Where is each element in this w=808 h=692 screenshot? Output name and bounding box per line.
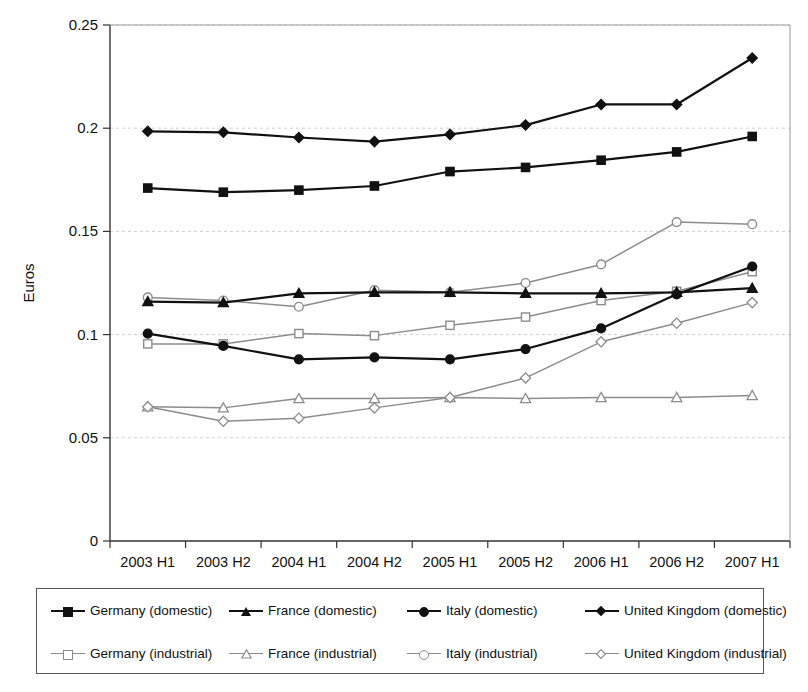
filled-square-marker — [295, 186, 303, 194]
filled-diamond-marker — [294, 132, 304, 142]
filled-circle-glyph — [419, 607, 429, 617]
legend-row-industrial: Germany (industrial) France (industrial)… — [37, 632, 763, 675]
open-circle-icon — [407, 647, 441, 661]
legend-label: Italy (industrial) — [446, 646, 538, 661]
filled-square-marker — [219, 188, 227, 196]
legend-item-germany-domestic[interactable]: Germany (domestic) — [51, 603, 229, 618]
open-triangle-glyph — [241, 650, 251, 659]
filled-diamond-marker — [445, 129, 455, 139]
filled-square-marker — [521, 163, 529, 171]
filled-square-marker — [446, 167, 454, 175]
open-circle-marker — [672, 218, 681, 227]
filled-circle-marker — [143, 329, 152, 338]
filled-triangle-glyph — [241, 607, 251, 616]
filled-diamond-glyph — [596, 606, 606, 616]
open-square-marker — [295, 329, 303, 337]
x-tick-label: 2005 H1 — [423, 554, 478, 570]
legend-item-united-kingdom-domestic[interactable]: United Kingdom (domestic) — [585, 603, 763, 618]
legend-item-italy-domestic[interactable]: Italy (domestic) — [407, 603, 585, 618]
filled-square-marker — [673, 148, 681, 156]
legend-item-france-industrial[interactable]: France (industrial) — [229, 646, 407, 661]
legend-label: United Kingdom (domestic) — [624, 603, 787, 618]
open-square-glyph — [63, 650, 73, 660]
x-tick-label: 2006 H2 — [649, 554, 704, 570]
x-tick-label: 2003 H1 — [120, 554, 175, 570]
legend-label: United Kingdom (industrial) — [624, 646, 787, 661]
filled-circle-marker — [446, 355, 455, 364]
y-tick-label: 0.1 — [77, 326, 98, 343]
filled-diamond-marker — [369, 137, 379, 147]
filled-diamond-marker — [747, 53, 757, 63]
legend-row-domestic: Germany (domestic) France (domestic) Ita… — [37, 589, 763, 632]
open-diamond-marker — [369, 403, 379, 413]
y-tick-label: 0.2 — [77, 119, 98, 136]
filled-square-icon — [51, 604, 85, 618]
legend-item-united-kingdom-industrial[interactable]: United Kingdom (industrial) — [585, 646, 763, 661]
filled-circle-marker — [521, 345, 530, 354]
legend-label: Italy (domestic) — [446, 603, 538, 618]
x-tick-label: 2005 H2 — [498, 554, 553, 570]
series-line — [148, 272, 752, 344]
legend-item-germany-industrial[interactable]: Germany (industrial) — [51, 646, 229, 661]
y-tick-label: 0.05 — [69, 429, 98, 446]
open-square-marker — [144, 340, 152, 348]
filled-circle-marker — [370, 353, 379, 362]
filled-diamond-icon — [585, 604, 619, 618]
open-diamond-marker — [294, 413, 304, 423]
filled-circle-marker — [672, 290, 681, 299]
y-tick-label: 0.25 — [69, 16, 98, 33]
chart-page: 00.050.10.150.20.252003 H12003 H22004 H1… — [0, 0, 808, 692]
x-tick-label: 2006 H1 — [574, 554, 629, 570]
filled-circle-marker — [294, 355, 303, 364]
filled-diamond-marker — [218, 127, 228, 137]
filled-square-marker — [370, 182, 378, 190]
filled-circle-marker — [597, 324, 606, 333]
x-tick-label: 2003 H2 — [196, 554, 251, 570]
legend-item-italy-industrial[interactable]: Italy (industrial) — [407, 646, 585, 661]
open-diamond-icon — [585, 647, 619, 661]
x-tick-label: 2004 H2 — [347, 554, 402, 570]
y-tick-label: 0 — [90, 532, 98, 549]
open-circle-marker — [597, 260, 606, 269]
open-square-icon — [51, 647, 85, 661]
y-tick-label: 0.15 — [69, 222, 98, 239]
legend-label: France (domestic) — [268, 603, 377, 618]
open-square-marker — [521, 313, 529, 321]
open-diamond-marker — [672, 318, 682, 328]
line-chart: 00.050.10.150.20.252003 H12003 H22004 H1… — [0, 0, 808, 575]
open-diamond-glyph — [596, 649, 606, 659]
x-tick-label: 2007 H1 — [725, 554, 780, 570]
legend-label: Germany (domestic) — [90, 603, 212, 618]
filled-square-glyph — [63, 607, 73, 617]
filled-square-marker — [597, 156, 605, 164]
legend-label: Germany (industrial) — [90, 646, 212, 661]
filled-diamond-marker — [672, 99, 682, 109]
filled-diamond-marker — [520, 120, 530, 130]
open-diamond-marker — [747, 298, 757, 308]
chart-legend: Germany (domestic) France (domestic) Ita… — [36, 588, 764, 674]
chart-plot-area: 00.050.10.150.20.252003 H12003 H22004 H1… — [0, 0, 808, 575]
filled-circle-marker — [748, 262, 757, 271]
open-square-marker — [446, 321, 454, 329]
filled-circle-marker — [219, 342, 228, 351]
legend-label: France (industrial) — [268, 646, 377, 661]
open-diamond-marker — [218, 416, 228, 426]
open-triangle-icon — [229, 647, 263, 661]
open-diamond-marker — [520, 373, 530, 383]
open-circle-marker — [748, 220, 757, 229]
x-tick-label: 2004 H1 — [271, 554, 326, 570]
open-circle-marker — [294, 302, 303, 311]
filled-diamond-marker — [596, 99, 606, 109]
filled-circle-icon — [407, 604, 441, 618]
open-square-marker — [370, 332, 378, 340]
filled-square-marker — [748, 132, 756, 140]
open-circle-marker — [521, 279, 530, 288]
legend-item-france-domestic[interactable]: France (domestic) — [229, 603, 407, 618]
open-circle-glyph — [419, 650, 429, 660]
filled-diamond-marker — [143, 126, 153, 136]
open-diamond-marker — [596, 337, 606, 347]
filled-triangle-icon — [229, 604, 263, 618]
series-line — [148, 136, 752, 192]
y-axis-title: Euros — [20, 263, 37, 302]
series-line — [148, 266, 752, 359]
